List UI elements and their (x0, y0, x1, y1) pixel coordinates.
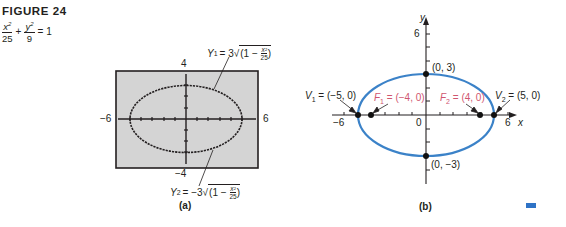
window-ymin-label: −4 (175, 168, 186, 179)
x-tick-neg6: −6 (333, 117, 344, 128)
point-bottom (423, 153, 429, 159)
v1-label: V1 = (−5, 0) (305, 90, 356, 103)
x-tick-6: 6 (505, 117, 511, 128)
y1-equation-label: Y1 = 3√ (1 − x²25) (207, 45, 271, 61)
figure-graphics (0, 0, 566, 227)
v2-label: V2 = (5, 0) (495, 90, 540, 103)
caption-b: (b) (419, 201, 432, 212)
caption-a: (a) (179, 200, 191, 211)
f1-label: F1 = (−4, 0) (374, 92, 425, 105)
y-axis-label: y (420, 12, 425, 23)
y-tick-6: 6 (414, 28, 420, 39)
origin-label: 0 (416, 117, 422, 128)
y2-equation-label: Y2 = −3√ (1 − x²25) (170, 184, 240, 200)
y-ticks (426, 34, 430, 170)
end-of-figure-marker (526, 203, 536, 208)
window-ymax-label: 4 (181, 58, 187, 69)
window-xmin-label: −6 (100, 113, 111, 124)
f2-label: F2 = (4, 0) (440, 92, 485, 105)
point-bottom-label: (0, −3) (431, 159, 460, 170)
point-top-label: (0, 3) (432, 62, 455, 73)
x-axis-label: x (518, 117, 523, 128)
point-top (423, 71, 429, 77)
window-xmax-label: 6 (263, 113, 269, 124)
